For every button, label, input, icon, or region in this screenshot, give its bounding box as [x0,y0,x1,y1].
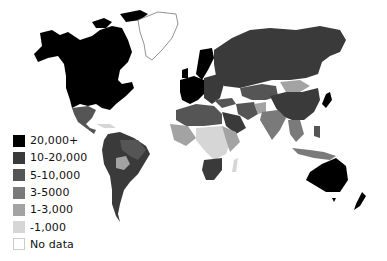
legend-label: 20,000+ [30,134,78,147]
legend-swatch [13,238,25,250]
legend-item-under-1000: -1,000 [13,218,87,235]
region-india [260,110,286,140]
legend-item-no-data: No data [13,236,87,253]
region-scandinavia [196,48,214,80]
region-mongolia [280,80,310,92]
region-russia [214,26,346,88]
legend-label: -1,000 [30,221,66,234]
region-indonesia [292,148,336,160]
legend-swatch [13,221,25,233]
legend-label: No data [30,238,74,251]
region-philippines [314,126,320,138]
region-japan [322,92,332,108]
legend-label: 1-3,000 [30,203,73,216]
legend: 20,000+ 10-20,000 5-10,000 3-5000 1-3,00… [13,132,87,253]
region-tasmania [332,198,336,202]
legend-swatch [13,152,25,164]
region-north-america [34,26,134,110]
region-western-europe [180,76,206,104]
legend-item-20000-plus: 20,000+ [13,132,87,149]
region-greenland [138,12,178,60]
legend-label: 3-5000 [30,186,70,199]
legend-swatch [13,169,25,181]
legend-label: 5-10,000 [30,169,80,182]
region-caribbean [96,124,116,128]
world-map-figure: 20,000+ 10-20,000 5-10,000 3-5000 1-3,00… [0,0,387,261]
legend-item-1-3000: 1-3,000 [13,201,87,218]
legend-swatch [13,187,25,199]
region-southeast-asia [288,120,304,142]
legend-item-5-10000: 5-10,000 [13,167,87,184]
legend-item-10-20000: 10-20,000 [13,149,87,166]
region-uk [182,68,188,78]
region-north-africa [176,104,222,126]
region-mexico [72,106,96,134]
legend-swatch [13,204,25,216]
region-southern-africa [202,158,222,180]
region-australia [306,158,348,192]
legend-item-3-5000: 3-5000 [13,184,87,201]
region-madagascar [232,158,238,172]
region-new-zealand [354,192,366,210]
legend-swatch [13,135,25,147]
region-west-africa [170,124,196,146]
legend-label: 10-20,000 [30,151,87,164]
